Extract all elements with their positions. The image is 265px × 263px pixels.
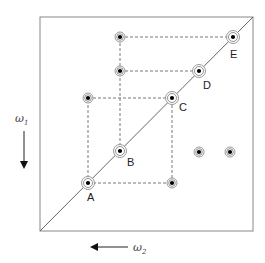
cross-peak bbox=[115, 32, 125, 42]
diagonal-peak bbox=[114, 145, 127, 158]
diagonal-peak bbox=[227, 31, 240, 44]
diagonal-peak bbox=[82, 177, 95, 190]
omega1-axis: ω1 bbox=[15, 112, 28, 165]
correlation-diagram: ABCDE ω1 ω2 bbox=[0, 0, 265, 263]
cross-peak bbox=[115, 66, 125, 76]
cross-peak bbox=[83, 93, 93, 103]
peak-label-E: E bbox=[230, 48, 237, 60]
diagonal-peak bbox=[166, 92, 179, 105]
omega1-label: ω1 bbox=[15, 112, 28, 127]
cross-peak bbox=[225, 147, 235, 157]
cross-peak bbox=[194, 147, 204, 157]
omega2-axis: ω2 bbox=[94, 241, 147, 256]
peak-label-D: D bbox=[203, 79, 211, 91]
diagonal-line bbox=[40, 17, 253, 231]
cross-peak bbox=[167, 178, 177, 188]
omega2-label: ω2 bbox=[133, 241, 147, 256]
peak-label-A: A bbox=[87, 191, 95, 203]
peak-label-C: C bbox=[179, 101, 187, 113]
peak-label-B: B bbox=[127, 156, 134, 168]
diagonal-peak bbox=[193, 65, 206, 78]
